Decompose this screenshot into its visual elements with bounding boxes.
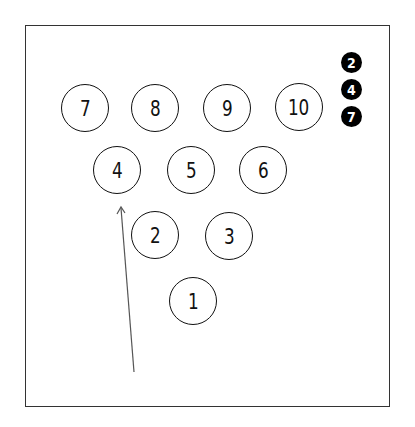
ball-path-arrow-icon bbox=[0, 0, 415, 427]
